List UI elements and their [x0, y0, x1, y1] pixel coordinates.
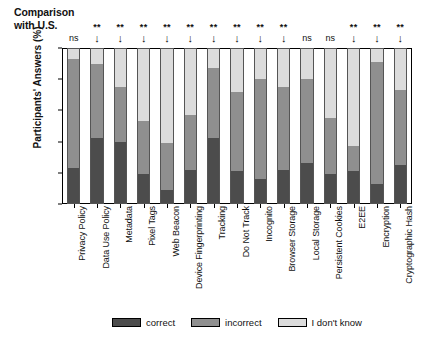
x-axis-label: Tracking	[217, 206, 227, 239]
bar-data-use-policy	[90, 48, 103, 204]
figure-stacked-bar-chart: Comparison with U.S. ns**↓**↓**↓**↓**↓**…	[0, 0, 431, 353]
y-axis-tick-mark	[58, 79, 62, 80]
legend-item: I don't know	[278, 317, 362, 328]
bar-segment-dk	[370, 48, 383, 62]
bar-privacy-policy	[67, 48, 80, 204]
bar-browser-storage	[277, 48, 290, 204]
bar-web-beacon	[160, 48, 173, 204]
significance-marker: **↓	[85, 8, 108, 46]
x-axis-label: Web Beacon	[171, 206, 181, 256]
significance-marker: ns	[295, 8, 318, 46]
bar-segment-correct	[277, 170, 290, 204]
bar-segment-dk	[114, 48, 127, 87]
legend-item: correct	[112, 317, 175, 328]
bar-segment-incorrect	[324, 118, 337, 174]
significance-marker: **↓	[342, 8, 365, 46]
bar-segment-dk	[207, 48, 220, 68]
x-axis-label: Incognito	[264, 206, 274, 242]
y-axis-label: Participants' Answers (%)	[32, 3, 43, 173]
bar-e2ee	[347, 48, 360, 204]
bar-segment-correct	[67, 168, 80, 204]
x-axis-label: Local Storage	[311, 206, 321, 260]
arrow-down-icon: ↓	[118, 33, 124, 46]
bar-tracking	[207, 48, 220, 204]
bar-encryption	[370, 48, 383, 204]
significance-marker: ns	[319, 8, 342, 46]
bar-segment-correct	[184, 170, 197, 204]
arrow-down-icon: ↓	[188, 33, 194, 46]
x-axis-label: Privacy Policy	[77, 206, 87, 261]
arrow-down-icon: ↓	[141, 33, 147, 46]
bar-segment-dk	[230, 48, 243, 92]
significance-marker: **↓	[389, 8, 412, 46]
arrow-down-icon: ↓	[351, 33, 357, 46]
legend-swatch-correct	[112, 318, 141, 327]
bar-cryptographic-hash	[394, 48, 407, 204]
significance-marker-row: ns**↓**↓**↓**↓**↓**↓**↓**↓**↓nsns**↓**↓*…	[62, 8, 412, 46]
significance-marker: ns	[62, 8, 85, 46]
significance-marker: **↓	[272, 8, 295, 46]
y-axis-tick-mark	[58, 110, 62, 111]
bar-pixel-tags	[137, 48, 150, 204]
significance-marker: **↓	[249, 8, 272, 46]
bar-segment-incorrect	[347, 146, 360, 171]
bar-segment-correct	[394, 165, 407, 204]
y-axis-tick-mark	[58, 204, 62, 205]
y-axis-tick-mark	[58, 141, 62, 142]
bar-segment-incorrect	[184, 115, 197, 170]
arrow-down-icon: ↓	[94, 33, 100, 46]
x-axis-label: Data Use Policy	[101, 206, 111, 269]
y-axis-tick-mark	[58, 48, 62, 49]
bar-segment-incorrect	[67, 59, 80, 168]
bar-segment-incorrect	[370, 62, 383, 184]
significance-marker: **↓	[109, 8, 132, 46]
bar-segment-dk	[324, 48, 337, 118]
bar-persistent-cookies	[324, 48, 337, 204]
significance-marker: **↓	[179, 8, 202, 46]
bar-segment-incorrect	[207, 68, 220, 138]
bar-segment-dk	[90, 48, 103, 64]
x-axis-label: Persistent Cookies	[334, 206, 344, 279]
legend-label: correct	[146, 317, 175, 328]
not-significant-label: ns	[69, 33, 79, 46]
bar-do-not-track	[230, 48, 243, 204]
x-axis-label: Metadata	[124, 206, 134, 243]
bar-segment-correct	[300, 163, 313, 204]
bar-segment-correct	[160, 190, 173, 204]
bar-segment-correct	[90, 138, 103, 204]
significance-marker: **↓	[202, 8, 225, 46]
significance-marker: **↓	[132, 8, 155, 46]
arrow-down-icon: ↓	[258, 33, 264, 46]
bar-segment-dk	[160, 48, 173, 143]
x-axis-label: E2EE	[357, 206, 367, 229]
not-significant-label: ns	[302, 33, 312, 46]
legend-label: incorrect	[225, 317, 261, 328]
bar-segment-correct	[230, 171, 243, 204]
arrow-down-icon: ↓	[234, 33, 240, 46]
chart-legend: correctincorrectI don't know	[62, 314, 412, 330]
bar-segment-incorrect	[254, 79, 267, 179]
bar-segment-incorrect	[160, 143, 173, 190]
arrow-down-icon: ↓	[398, 33, 404, 46]
bar-segment-dk	[394, 48, 407, 90]
plot-area: 100806040200	[62, 48, 412, 204]
bar-segment-correct	[207, 138, 220, 204]
bar-segment-incorrect	[114, 87, 127, 142]
x-axis-label: Browser Storage	[287, 206, 297, 272]
legend-swatch-incorrect	[191, 318, 220, 327]
bar-segment-correct	[137, 174, 150, 204]
bar-segment-dk	[67, 48, 80, 59]
arrow-down-icon: ↓	[374, 33, 380, 46]
significance-marker: **↓	[225, 8, 248, 46]
bar-device-fingerprinting	[184, 48, 197, 204]
bar-local-storage	[300, 48, 313, 204]
significance-marker: **↓	[365, 8, 388, 46]
arrow-down-icon: ↓	[211, 33, 217, 46]
x-axis-label: Pixel Tags	[147, 206, 157, 246]
bar-segment-dk	[300, 48, 313, 79]
not-significant-label: ns	[326, 33, 336, 46]
bar-segment-correct	[254, 179, 267, 204]
legend-label: I don't know	[312, 317, 362, 328]
bar-segment-incorrect	[90, 64, 103, 139]
bar-segment-correct	[324, 174, 337, 204]
